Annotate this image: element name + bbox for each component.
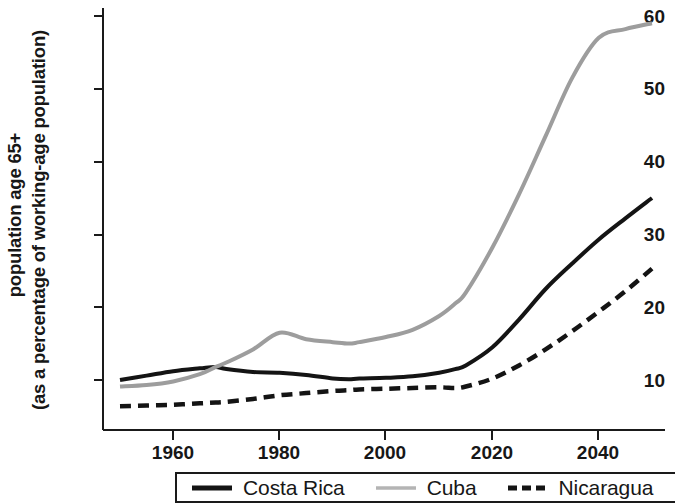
legend-swatch-dashed-black-line [507, 481, 549, 495]
legend-item-cuba[interactable]: Cuba [375, 476, 477, 500]
legend-item-nicaragua[interactable]: Nicaragua [507, 476, 654, 500]
legend-label-cuba: Cuba [427, 476, 477, 500]
x-axis-ticks [173, 430, 598, 440]
series-line-cuba [120, 23, 652, 386]
legend-label-nicaragua: Nicaragua [559, 476, 654, 500]
legend-item-costa-rica[interactable]: Costa Rica [191, 476, 345, 500]
chart-legend: Costa Rica Cuba Nicaragua [175, 472, 675, 503]
series-line-costa-rica [120, 198, 652, 380]
legend-label-costa-rica: Costa Rica [243, 476, 345, 500]
y-axis-ticks [94, 16, 103, 380]
data-series-layer [120, 23, 652, 406]
legend-swatch-solid-gray-line [375, 481, 417, 495]
legend-swatch-solid-black-line [191, 481, 233, 495]
